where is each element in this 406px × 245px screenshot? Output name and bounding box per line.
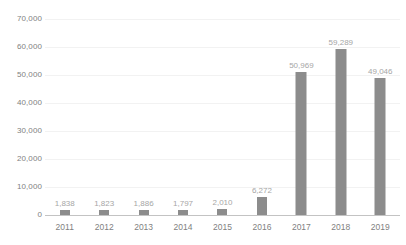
y-tick-label: 0 xyxy=(0,211,42,219)
bar-group: 1,797 xyxy=(163,0,202,245)
y-tick-label: 10,000 xyxy=(0,183,42,191)
bar xyxy=(178,210,188,215)
y-tick-label: 50,000 xyxy=(0,71,42,79)
bar-group: 6,272 xyxy=(242,0,281,245)
x-tick-label: 2015 xyxy=(213,222,232,232)
bar-value-label: 6,272 xyxy=(252,186,272,195)
bars-layer: 1,8381,8231,8861,7972,0106,27250,96959,2… xyxy=(45,0,400,245)
bar xyxy=(257,197,267,215)
bar-value-label: 1,797 xyxy=(173,199,193,208)
x-tick-label: 2018 xyxy=(331,222,350,232)
bar xyxy=(99,210,109,215)
bar xyxy=(60,210,70,215)
y-tick-label: 60,000 xyxy=(0,43,42,51)
x-tick-label: 2019 xyxy=(371,222,390,232)
bar xyxy=(375,78,386,215)
x-axis: 201120122013201420152016201720182019 xyxy=(45,222,400,242)
y-tick-label: 30,000 xyxy=(0,127,42,135)
bar-value-label: 50,969 xyxy=(289,61,313,70)
bar-group: 1,838 xyxy=(45,0,84,245)
plot-area: 1,8381,8231,8861,7972,0106,27250,96959,2… xyxy=(45,0,400,245)
x-tick-label: 2014 xyxy=(174,222,193,232)
bar-value-label: 2,010 xyxy=(212,198,232,207)
bar xyxy=(296,72,307,215)
x-tick-label: 2011 xyxy=(56,222,74,232)
x-tick-label: 2017 xyxy=(292,222,311,232)
y-tick-label: 20,000 xyxy=(0,155,42,163)
bar-group: 50,969 xyxy=(282,0,321,245)
x-tick-label: 2012 xyxy=(95,222,114,232)
x-tick-label: 2016 xyxy=(252,222,271,232)
bar-value-label: 1,823 xyxy=(94,199,114,208)
y-axis: 010,00020,00030,00040,00050,00060,00070,… xyxy=(0,0,42,245)
bar-group: 49,046 xyxy=(361,0,400,245)
bar-value-label: 1,838 xyxy=(55,199,75,208)
y-tick-label: 70,000 xyxy=(0,15,42,23)
bar-group: 1,823 xyxy=(84,0,123,245)
bar-group: 59,289 xyxy=(321,0,360,245)
bar-value-label: 59,289 xyxy=(329,38,353,47)
bar-value-label: 49,046 xyxy=(368,67,392,76)
bar xyxy=(217,209,227,215)
x-tick-label: 2013 xyxy=(134,222,153,232)
bar-chart: 010,00020,00030,00040,00050,00060,00070,… xyxy=(0,0,406,245)
bar-group: 1,886 xyxy=(124,0,163,245)
bar xyxy=(139,210,149,215)
y-tick-label: 40,000 xyxy=(0,99,42,107)
bar-group: 2,010 xyxy=(203,0,242,245)
bar xyxy=(335,49,346,215)
bar-value-label: 1,886 xyxy=(134,199,154,208)
